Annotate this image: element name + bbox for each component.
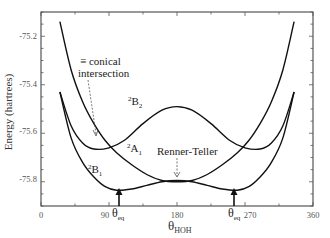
theta-eq-right-sub: eq xyxy=(234,214,241,222)
conical-intersection-label-line1: ≡ conical xyxy=(80,55,121,67)
theta-eq-right-arrowhead-icon xyxy=(231,188,238,195)
renner-teller-label: Renner-Teller xyxy=(157,145,218,157)
label-2B2-main: B xyxy=(132,95,139,107)
theta-eq-left-label: θeq xyxy=(112,206,125,222)
x-tick-label: 90 xyxy=(101,210,110,220)
conical-intersection-label-line2: intersection xyxy=(78,67,130,79)
x-tick-label: 270 xyxy=(244,210,257,220)
curve-2A1 xyxy=(60,22,294,182)
label-2B2-sub: 2 xyxy=(139,102,143,110)
label-2B1: 2B1 xyxy=(88,163,103,178)
x-tick-label: 0 xyxy=(39,210,43,220)
theta-eq-left-sub: eq xyxy=(118,214,125,222)
y-axis-tick-labels: -75.2 -75.4 -75.6 -75.8 xyxy=(19,31,37,184)
label-2B2: 2B2 xyxy=(128,95,143,110)
conical-intersection-arrow xyxy=(88,80,96,134)
label-2A1-sub: 1 xyxy=(138,149,142,157)
label-2B1-sub: 1 xyxy=(99,170,103,178)
x-axis-title: θHOH xyxy=(168,218,192,235)
label-2A1: 2A1 xyxy=(127,142,142,157)
theta-eq-left-arrowhead-icon xyxy=(116,188,123,195)
y-tick-label: -75.2 xyxy=(19,31,37,41)
y-tick-label: -75.4 xyxy=(19,79,37,89)
y-tick-label: -75.6 xyxy=(19,126,37,136)
label-2B1-main: B xyxy=(92,163,99,175)
curve-2B2 xyxy=(60,92,294,149)
x-tick-label: 360 xyxy=(307,210,320,220)
y-tick-label: -75.8 xyxy=(19,174,37,184)
x-axis-tick-labels: 0 90 180 270 360 xyxy=(39,210,320,220)
energy-chart: 0 90 180 270 360 -75.2 -75.4 -75.6 -75.8… xyxy=(0,0,330,238)
x-axis-title-sub: HOH xyxy=(174,226,192,235)
y-axis-title: Energy (hartrees) xyxy=(2,73,15,150)
label-2A1-main: A xyxy=(131,142,139,154)
theta-eq-right-label: θeq xyxy=(228,206,241,222)
